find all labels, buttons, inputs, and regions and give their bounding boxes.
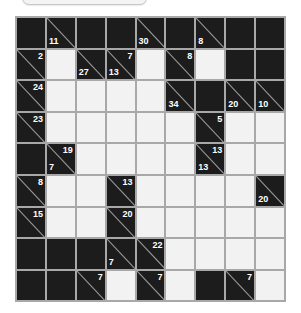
clue-cell: 23 — [16, 112, 46, 144]
down-clue: 27 — [79, 68, 89, 77]
across-clue: 13 — [123, 178, 133, 187]
clue-cell: 15 — [16, 207, 46, 239]
clue-cell: 20 — [255, 175, 285, 207]
clue-cell: 13 — [106, 175, 136, 207]
entry-cell[interactable] — [255, 238, 285, 270]
blocked-cell — [225, 49, 255, 81]
entry-cell[interactable] — [46, 175, 76, 207]
blocked-cell — [106, 17, 136, 49]
entry-cell[interactable] — [255, 270, 285, 302]
entry-cell[interactable] — [225, 238, 255, 270]
across-clue: 22 — [152, 241, 162, 250]
entry-cell[interactable] — [255, 112, 285, 144]
clue-cell: 11 — [46, 17, 76, 49]
blocked-cell — [195, 80, 225, 112]
clue-cell: 7 — [136, 270, 166, 302]
clue-cell: 27 — [76, 49, 106, 81]
clue-cell: 7 — [225, 270, 255, 302]
blocked-cell — [76, 238, 106, 270]
entry-cell[interactable] — [255, 143, 285, 175]
blocked-cell — [165, 17, 195, 49]
entry-cell[interactable] — [195, 49, 225, 81]
clue-cell: 8 — [16, 175, 46, 207]
across-clue: 7 — [247, 273, 252, 282]
entry-cell[interactable] — [255, 207, 285, 239]
clue-cell: 34 — [165, 80, 195, 112]
down-clue: 7 — [109, 258, 114, 267]
entry-cell[interactable] — [136, 143, 166, 175]
clue-cell: 7 — [106, 238, 136, 270]
entry-cell[interactable] — [225, 175, 255, 207]
blocked-cell — [225, 17, 255, 49]
across-clue: 5 — [217, 115, 222, 124]
clue-cell: 8 — [165, 49, 195, 81]
down-clue: 8 — [198, 37, 203, 46]
entry-cell[interactable] — [136, 175, 166, 207]
clue-cell: 197 — [46, 143, 76, 175]
across-clue: 15 — [33, 210, 43, 219]
entry-cell[interactable] — [76, 80, 106, 112]
across-clue: 8 — [187, 52, 192, 61]
blocked-cell — [16, 238, 46, 270]
across-clue: 20 — [123, 210, 133, 219]
across-clue: 7 — [157, 273, 162, 282]
entry-cell[interactable] — [165, 270, 195, 302]
entry-cell[interactable] — [46, 207, 76, 239]
down-clue: 30 — [139, 37, 149, 46]
across-clue: 13 — [212, 146, 222, 155]
entry-cell[interactable] — [225, 207, 255, 239]
entry-cell[interactable] — [106, 270, 136, 302]
entry-cell[interactable] — [136, 49, 166, 81]
entry-cell[interactable] — [165, 207, 195, 239]
blocked-cell — [46, 270, 76, 302]
clue-cell: 713 — [106, 49, 136, 81]
clue-cell: 5 — [195, 112, 225, 144]
kakuro-grid: 1130822771382434201023519713138132015207… — [15, 16, 286, 302]
clue-cell: 22 — [136, 238, 166, 270]
down-clue: 13 — [198, 163, 208, 172]
entry-cell[interactable] — [225, 112, 255, 144]
clue-cell: 20 — [225, 80, 255, 112]
entry-cell[interactable] — [46, 112, 76, 144]
entry-cell[interactable] — [165, 112, 195, 144]
clue-cell: 10 — [255, 80, 285, 112]
down-clue: 20 — [258, 195, 268, 204]
blocked-cell — [255, 49, 285, 81]
across-clue: 2 — [38, 52, 43, 61]
entry-cell[interactable] — [165, 143, 195, 175]
blocked-cell — [16, 17, 46, 49]
entry-cell[interactable] — [136, 80, 166, 112]
entry-cell[interactable] — [46, 80, 76, 112]
entry-cell[interactable] — [106, 80, 136, 112]
across-clue: 24 — [33, 83, 43, 92]
blocked-cell — [76, 17, 106, 49]
entry-cell[interactable] — [76, 207, 106, 239]
entry-cell[interactable] — [76, 112, 106, 144]
entry-cell[interactable] — [76, 143, 106, 175]
entry-cell[interactable] — [76, 175, 106, 207]
entry-cell[interactable] — [195, 238, 225, 270]
entry-cell[interactable] — [165, 238, 195, 270]
across-clue: 8 — [38, 178, 43, 187]
entry-cell[interactable] — [106, 112, 136, 144]
entry-cell[interactable] — [225, 143, 255, 175]
across-clue: 23 — [33, 115, 43, 124]
blocked-cell — [46, 238, 76, 270]
clue-cell: 20 — [106, 207, 136, 239]
entry-cell[interactable] — [136, 112, 166, 144]
blocked-cell — [255, 17, 285, 49]
entry-cell[interactable] — [165, 175, 195, 207]
clue-cell: 8 — [195, 17, 225, 49]
clue-cell: 2 — [16, 49, 46, 81]
entry-cell[interactable] — [195, 207, 225, 239]
entry-cell[interactable] — [195, 175, 225, 207]
entry-cell[interactable] — [46, 49, 76, 81]
across-clue: 7 — [98, 273, 103, 282]
entry-cell[interactable] — [106, 143, 136, 175]
blocked-cell — [16, 143, 46, 175]
entry-cell[interactable] — [136, 207, 166, 239]
clue-cell: 30 — [136, 17, 166, 49]
clue-cell: 24 — [16, 80, 46, 112]
down-clue: 20 — [228, 100, 238, 109]
across-clue: 7 — [128, 52, 133, 61]
